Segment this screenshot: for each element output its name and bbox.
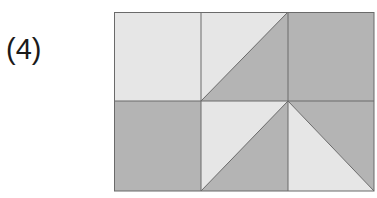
cell-r1-c0	[114, 101, 201, 191]
tile-grid-diagram	[0, 0, 377, 198]
cell-r0-c0	[114, 12, 201, 101]
cell-r0-c2	[288, 12, 374, 101]
